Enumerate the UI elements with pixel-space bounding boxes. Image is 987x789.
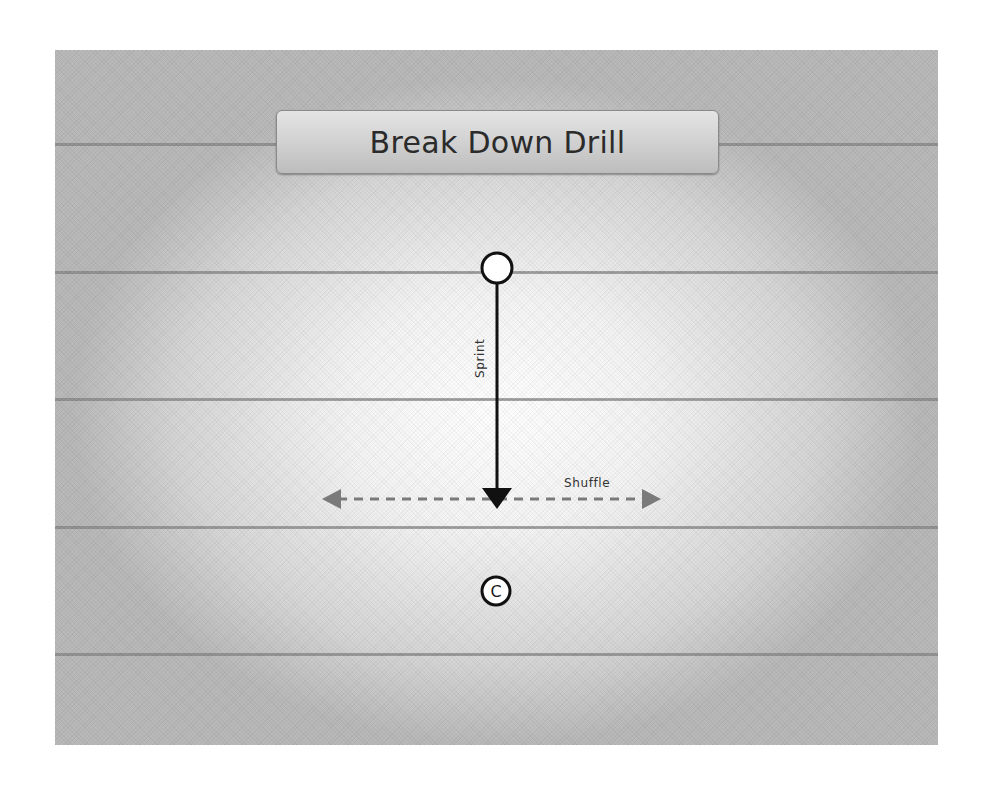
coach-marker: C bbox=[482, 577, 510, 605]
coach-label: C bbox=[490, 582, 501, 601]
arrow-left-icon bbox=[322, 489, 341, 509]
sprint-label: Sprint bbox=[473, 339, 487, 378]
arrow-right-icon bbox=[642, 489, 661, 509]
player-circle-icon bbox=[482, 253, 512, 283]
shuffle-label: Shuffle bbox=[564, 476, 610, 490]
sprint-route: Sprint bbox=[473, 284, 512, 509]
drill-diagram: Shuffle Sprint C bbox=[0, 0, 987, 789]
